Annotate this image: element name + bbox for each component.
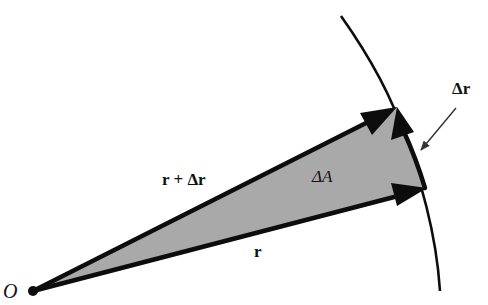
label-r: r	[254, 243, 262, 260]
diagram-graphics	[0, 0, 488, 305]
label-r-plus-dr: r + Δr	[162, 171, 206, 188]
label-delta-r: Δr	[452, 80, 470, 97]
origin-point	[28, 286, 38, 296]
delta-r-pointer-arrow	[421, 108, 456, 150]
label-delta-a: ΔA	[312, 168, 332, 185]
label-origin: O	[3, 281, 17, 301]
area-sweep-diagram: O r + Δr r ΔA Δr	[0, 0, 488, 305]
